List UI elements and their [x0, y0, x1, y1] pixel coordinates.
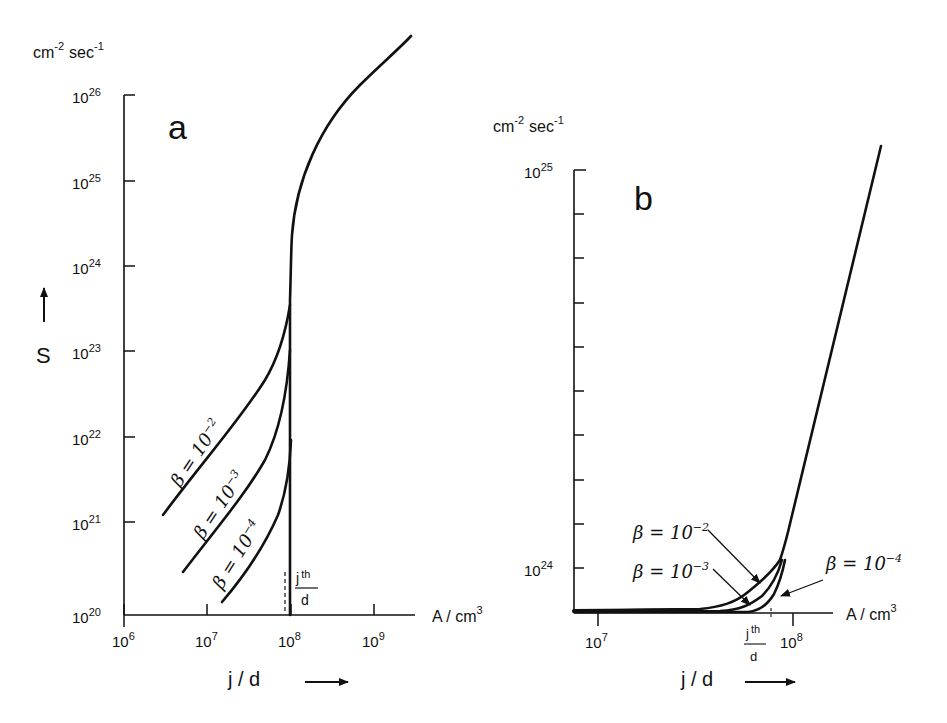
svg-text:jth: jth	[295, 568, 310, 586]
panel-b-curves	[574, 146, 881, 612]
svg-text:107: 107	[195, 630, 218, 650]
panel-a-letter: a	[168, 108, 187, 146]
arrow-icon	[713, 569, 750, 605]
panel-a-threshold-label: jth d	[295, 568, 318, 608]
panel-b-letter: b	[634, 179, 653, 217]
svg-text:107: 107	[585, 631, 608, 651]
panel-b-xlabel: j / d	[680, 668, 795, 690]
panel-b-xunit: A / cm3	[846, 602, 897, 623]
svg-text:d: d	[301, 592, 309, 608]
svg-text:S: S	[36, 343, 51, 368]
svg-text:1021: 1021	[72, 513, 101, 533]
svg-text:108: 108	[780, 631, 803, 651]
svg-text:1026: 1026	[72, 86, 101, 106]
panel-b-y-tick-labels: 1025 1024	[524, 161, 553, 579]
panel-b-x-ticks	[598, 613, 793, 626]
svg-text:1020: 1020	[72, 606, 101, 626]
curve-main	[780, 146, 881, 560]
panel-b-y-ticks	[574, 170, 586, 568]
svg-text:1025: 1025	[72, 172, 101, 192]
svg-text:1024: 1024	[524, 559, 553, 579]
panel-a: cm-2sec-1 a 1026 1025 1024 1023 1022 102…	[33, 36, 483, 690]
svg-text:β = 10−2: β = 10−2	[165, 415, 226, 491]
panel-a-xlabel: j / d	[227, 668, 348, 690]
panel-b-threshold-label: jth d	[744, 623, 766, 664]
panel-a-y-tick-labels: 1026 1025 1024 1023 1022 1021 1020	[72, 86, 101, 626]
svg-text:j / d: j / d	[227, 668, 260, 690]
svg-text:108: 108	[278, 630, 301, 650]
curve-main	[290, 36, 411, 615]
panel-a-yunit: cm-2sec-1	[33, 40, 104, 61]
panel-b-yunit: cm-2sec-1	[493, 114, 564, 135]
svg-text:d: d	[750, 649, 757, 664]
panel-a-xunit: A / cm3	[432, 604, 483, 625]
svg-text:1025: 1025	[524, 161, 553, 181]
panel-a-y-ticks	[124, 95, 135, 522]
arrow-icon	[781, 580, 823, 596]
svg-text:β = 10−4: β = 10−4	[825, 552, 902, 574]
panel-a-x-tick-labels: 106 107 108 109	[112, 630, 385, 650]
figure-canvas: cm-2sec-1 a 1026 1025 1024 1023 1022 102…	[0, 0, 947, 723]
svg-text:1023: 1023	[72, 342, 101, 362]
svg-text:1024: 1024	[72, 257, 101, 277]
panel-b: cm-2sec-1 b 1025 1024 107 108	[493, 114, 902, 690]
arrow-icon	[708, 530, 760, 583]
svg-text:106: 106	[112, 630, 135, 650]
panel-b-beta-labels: β = 10−2 β = 10−3 β = 10−4	[632, 521, 902, 582]
svg-text:1022: 1022	[72, 428, 101, 448]
svg-text:β = 10−2: β = 10−2	[632, 521, 709, 543]
svg-text:109: 109	[362, 630, 385, 650]
panel-b-x-tick-labels: 107 108	[585, 631, 803, 651]
svg-text:jth: jth	[745, 623, 760, 641]
svg-text:j / d: j / d	[680, 668, 713, 690]
svg-text:β = 10−3: β = 10−3	[632, 560, 709, 582]
panel-a-ylabel: S	[36, 288, 51, 368]
